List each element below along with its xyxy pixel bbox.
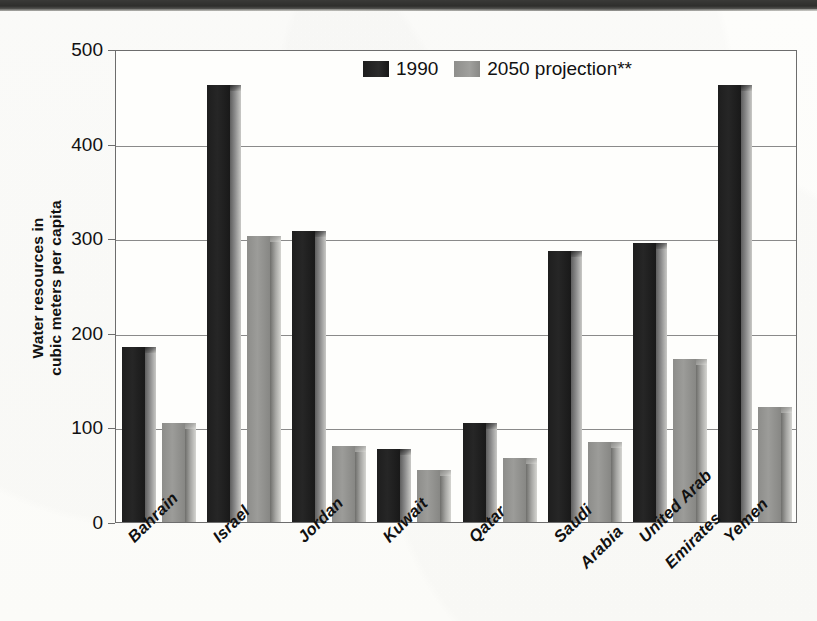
- bar-top-bevel: [611, 442, 622, 448]
- bar-top-bevel: [230, 85, 241, 91]
- bar-face: [162, 423, 185, 522]
- bar-shadow-side: [270, 242, 281, 522]
- bar-face: [548, 251, 571, 522]
- bar-top-bevel: [355, 446, 366, 452]
- bar-shadow-side: [781, 413, 792, 522]
- bar-shadow-side: [230, 91, 241, 522]
- bar-top-bevel: [696, 359, 707, 365]
- bar-united-arab-emirates-1990[interactable]: [633, 243, 656, 522]
- bar-face: [588, 442, 611, 522]
- legend-swatch-2050-projection: [454, 61, 480, 77]
- y-tick-mark: [108, 334, 115, 335]
- legend-item-2050-projection[interactable]: 2050 projection**: [454, 58, 632, 80]
- bar-top-bevel: [781, 407, 792, 413]
- chart-page: Water resources in cubic meters per capi…: [0, 0, 817, 621]
- scan-artifact-band: [0, 0, 817, 11]
- bar-face: [247, 236, 270, 522]
- bar-kuwait-2050projection[interactable]: [417, 470, 440, 522]
- bar-shadow-side: [400, 455, 411, 522]
- bar-top-bevel: [185, 423, 196, 429]
- bar-shadow-side: [656, 249, 667, 522]
- bar-shadow-side: [741, 91, 752, 522]
- bar-top-bevel: [440, 470, 451, 476]
- bar-saudi-arabia-2050projection[interactable]: [588, 442, 611, 522]
- bar-shadow-side: [486, 429, 497, 522]
- bar-face: [718, 85, 741, 522]
- bar-top-bevel: [741, 85, 752, 91]
- bar-top-bevel: [486, 423, 497, 429]
- bar-top-bevel: [315, 231, 326, 237]
- plot-area: [115, 50, 797, 523]
- bar-face: [758, 407, 781, 522]
- bar-shadow-side: [611, 448, 622, 522]
- y-tick-label: 200: [43, 323, 103, 345]
- bar-shadow-side: [440, 476, 451, 522]
- y-tick-mark: [108, 523, 115, 524]
- y-tick-mark: [108, 428, 115, 429]
- y-tick-label: 400: [43, 134, 103, 156]
- bar-israel-2050projection[interactable]: [247, 236, 270, 522]
- legend-item-1990[interactable]: 1990: [363, 58, 438, 80]
- y-tick-mark: [108, 50, 115, 51]
- bar-shadow-side: [571, 257, 582, 522]
- y-axis-title-line1: Water resources in: [29, 123, 47, 453]
- bars-layer: [116, 51, 796, 522]
- bar-shadow-side: [145, 353, 156, 522]
- y-axis-title: Water resources in cubic meters per capi…: [29, 123, 65, 453]
- y-tick-label: 100: [43, 417, 103, 439]
- bar-qatar-1990[interactable]: [463, 423, 486, 522]
- bar-bahrain-2050projection[interactable]: [162, 423, 185, 522]
- bar-face: [417, 470, 440, 522]
- legend-label-1990: 1990: [396, 58, 438, 80]
- y-tick-label: 300: [43, 228, 103, 250]
- bar-united-arab-emirates-2050projection[interactable]: [673, 359, 696, 522]
- bar-shadow-side: [355, 452, 366, 522]
- bar-face: [463, 423, 486, 522]
- bar-top-bevel: [270, 236, 281, 242]
- chart-legend: 1990 2050 projection**: [363, 58, 632, 80]
- bar-yemen-1990[interactable]: [718, 85, 741, 522]
- bar-top-bevel: [145, 347, 156, 353]
- bar-face: [503, 458, 526, 522]
- bar-top-bevel: [526, 458, 537, 464]
- bar-kuwait-1990[interactable]: [377, 449, 400, 522]
- bar-top-bevel: [571, 251, 582, 257]
- bar-jordan-2050projection[interactable]: [332, 446, 355, 522]
- bar-face: [292, 231, 315, 522]
- bar-top-bevel: [656, 243, 667, 249]
- y-tick-mark: [108, 145, 115, 146]
- x-axis-label-saudi-arabia: Arabia: [576, 522, 627, 573]
- bar-top-bevel: [400, 449, 411, 455]
- y-tick-label: 500: [43, 39, 103, 61]
- bar-face: [332, 446, 355, 522]
- y-tick-label: 0: [43, 512, 103, 534]
- legend-label-2050-projection: 2050 projection**: [487, 58, 632, 80]
- bar-jordan-1990[interactable]: [292, 231, 315, 522]
- bar-shadow-side: [315, 237, 326, 522]
- bar-qatar-2050projection[interactable]: [503, 458, 526, 522]
- legend-swatch-1990: [363, 61, 389, 77]
- y-tick-mark: [108, 239, 115, 240]
- bar-shadow-side: [526, 464, 537, 522]
- bar-israel-1990[interactable]: [207, 85, 230, 522]
- bar-saudi-arabia-1990[interactable]: [548, 251, 571, 522]
- bar-bahrain-1990[interactable]: [122, 347, 145, 522]
- bar-yemen-2050projection[interactable]: [758, 407, 781, 522]
- bar-shadow-side: [185, 429, 196, 522]
- bar-face: [377, 449, 400, 522]
- bar-face: [673, 359, 696, 522]
- y-axis-title-line2: cubic meters per capita: [47, 123, 65, 453]
- bar-face: [122, 347, 145, 522]
- bar-face: [207, 85, 230, 522]
- bar-shadow-side: [696, 365, 707, 522]
- bar-face: [633, 243, 656, 522]
